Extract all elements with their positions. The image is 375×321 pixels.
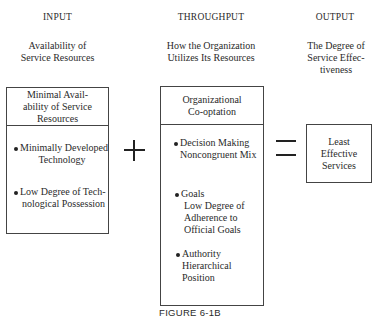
throughput-item-line: Official Goals [181, 224, 261, 236]
input-item: Low Degree of Tech- nological Possession [20, 186, 110, 210]
output-box-line: Effective [307, 148, 371, 160]
output-box-line: Services [307, 160, 371, 172]
throughput-item-line: Authority [182, 248, 262, 260]
input-header: INPUT [0, 12, 115, 22]
plus-vertical-bar [133, 140, 135, 161]
throughput-item-line: Hierarchical [182, 260, 262, 272]
output-subtitle-line: The Degree of [295, 40, 375, 52]
input-box-title-line: Resources [7, 113, 108, 125]
input-item-line: Low Degree of Tech- [20, 186, 110, 198]
throughput-box-title-line: Co-optation [161, 106, 263, 118]
input-item-line: Minimally Developed [20, 142, 110, 154]
throughput-header: THROUGHPUT [150, 12, 272, 22]
bullet-icon [174, 142, 178, 146]
output-box-line: Least [307, 136, 371, 148]
input-subtitle: Availability of Service Resources [0, 40, 115, 64]
input-item-line: Technology [20, 154, 110, 166]
bullet-icon [176, 253, 180, 257]
throughput-item-line: Decision Making [180, 137, 264, 149]
throughput-item-line: Noncongruent Mix [180, 149, 264, 161]
output-box: Least Effective Services [306, 124, 372, 183]
bullet-icon [14, 191, 18, 195]
throughput-item-line: Low Degree of [181, 200, 261, 212]
bullet-icon [14, 147, 18, 151]
throughput-item: Goals Low Degree of Adherence to Officia… [181, 188, 261, 236]
input-box-title-line: Minimal Avail- [7, 89, 108, 101]
throughput-item: Authority Hierarchical Position [182, 248, 262, 284]
input-item-line: nological Possession [20, 198, 110, 210]
throughput-subtitle-line: How the Organization [150, 40, 272, 52]
input-box: Minimal Avail- ability of Service Resour… [6, 87, 109, 234]
bullet-icon [175, 193, 179, 197]
input-box-title: Minimal Avail- ability of Service Resour… [7, 88, 108, 126]
throughput-box: Organizational Co-optation Decision Maki… [160, 86, 264, 306]
throughput-subtitle-line: Utilizes Its Resources [150, 52, 272, 64]
input-item: Minimally Developed Technology [20, 142, 110, 166]
throughput-subtitle: How the Organization Utilizes Its Resour… [150, 40, 272, 64]
input-subtitle-line: Availability of [0, 40, 115, 52]
output-subtitle-line: Service Effec- [295, 52, 375, 64]
equals-bottom-bar [276, 154, 296, 156]
input-box-title-line: ability of Service [7, 101, 108, 113]
input-subtitle-line: Service Resources [0, 52, 115, 64]
equals-top-bar [276, 140, 296, 142]
throughput-item-line: Adherence to [181, 212, 261, 224]
throughput-box-title-line: Organizational [161, 94, 263, 106]
throughput-item: Decision Making Noncongruent Mix [180, 137, 264, 161]
throughput-box-title: Organizational Co-optation [161, 87, 263, 125]
output-subtitle-line: tiveness [295, 64, 375, 76]
figure-caption: FIGURE 6-1B [120, 307, 260, 318]
throughput-item-line: Goals [181, 188, 261, 200]
output-header: OUTPUT [295, 12, 375, 22]
output-subtitle: The Degree of Service Effec- tiveness [295, 40, 375, 76]
throughput-item-line: Position [182, 272, 262, 284]
